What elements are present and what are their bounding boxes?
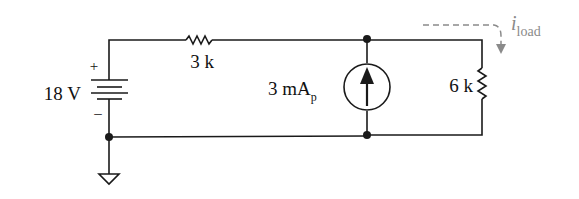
arrow-up-icon bbox=[360, 67, 374, 84]
wire-bottom bbox=[109, 136, 367, 137]
battery-plus-sign: + bbox=[90, 58, 98, 74]
arrow-down-icon bbox=[496, 44, 506, 54]
current-source-label: 3 mAp bbox=[268, 78, 317, 104]
resistor-6k bbox=[478, 68, 486, 99]
current-source-symbol bbox=[344, 39, 390, 135]
series-resistor-label: 3 k bbox=[190, 51, 214, 72]
circuit-diagram: + – 18 V 3 mAp 6 k 3 k iload bbox=[0, 0, 579, 199]
load-resistor-label: 6 k bbox=[449, 75, 473, 96]
resistor-3k bbox=[186, 36, 212, 44]
wire-top-right bbox=[212, 40, 482, 68]
voltage-source-label: 18 V bbox=[44, 83, 81, 104]
wire-right-bottom bbox=[367, 99, 482, 135]
ground-icon bbox=[99, 137, 119, 184]
battery-minus-sign: – bbox=[93, 105, 102, 121]
load-current-label: iload bbox=[511, 12, 541, 39]
wire-top-left bbox=[109, 40, 186, 72]
node-bottom-left bbox=[105, 133, 113, 141]
